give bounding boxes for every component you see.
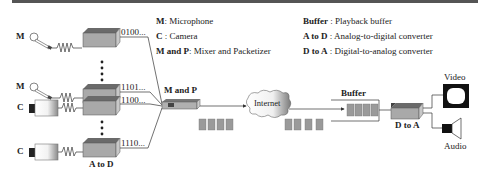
d-to-a-label: D to A xyxy=(395,120,420,130)
legend-desc: Camera xyxy=(170,31,198,41)
camera-icon-1 xyxy=(29,100,58,116)
internet-label: Internet xyxy=(254,98,280,108)
m-and-p-label: M and P xyxy=(164,85,197,95)
zigzag-wire-4 xyxy=(58,147,83,156)
legend-key: Buffer xyxy=(303,16,328,26)
adc-box-3 xyxy=(83,96,120,115)
dac-to-video-wire xyxy=(423,95,443,108)
legend-right-row-2: A to D : Analog-to-digital converter xyxy=(303,31,433,42)
mixer-packetizer-box xyxy=(162,99,200,109)
legend-desc: Analog-to-digital converter xyxy=(334,31,433,41)
legend-sep: : xyxy=(328,46,335,56)
legend-left-row-1: M: Microphone xyxy=(156,16,213,27)
legend-desc: Digital-to-analog converter xyxy=(335,46,433,56)
playback-buffer xyxy=(331,100,379,121)
audio-label: Audio xyxy=(444,141,467,151)
dac-to-audio-wire xyxy=(423,113,442,128)
legend-left-row-3: M and P: Mixer and Packetizer xyxy=(156,46,271,57)
code-label-4: 1110... xyxy=(121,138,145,148)
legend-sep: : xyxy=(328,16,335,26)
microphone-icon-2 xyxy=(30,83,52,100)
ellipsis-dots-1 xyxy=(101,61,104,82)
microphone-icon-1 xyxy=(30,33,52,50)
video-monitor-icon xyxy=(443,84,469,108)
legend-desc: Microphone xyxy=(169,16,213,26)
camera-icon-2 xyxy=(29,144,58,160)
legend-left-row-2: C : Camera xyxy=(156,31,198,42)
ellipsis-dots-2 xyxy=(101,121,104,136)
legend-desc: Playback buffer xyxy=(335,16,392,26)
code-label-2: 1101... xyxy=(121,82,145,92)
zigzag-wire-3 xyxy=(58,103,83,112)
video-label: Video xyxy=(444,72,465,82)
legend-right-row-3: D to A : Digital-to-analog converter xyxy=(303,46,433,57)
a-to-d-label: A to D xyxy=(89,159,114,169)
adc-box-1 xyxy=(83,28,120,47)
legend-right-row-1: Buffer : Playback buffer xyxy=(303,16,392,27)
legend-sep: : xyxy=(163,31,170,41)
buffer-label: Buffer xyxy=(341,88,366,98)
diagram-graphics xyxy=(0,0,491,182)
audio-speaker-icon xyxy=(442,118,461,139)
packets-1 xyxy=(199,119,233,130)
legend-key: M xyxy=(156,16,165,26)
source-label-2: M xyxy=(16,81,25,91)
packets-2 xyxy=(285,119,323,130)
source-label-3: C xyxy=(17,102,24,112)
source-label-1: M xyxy=(16,31,25,41)
code-label-1: 0100... xyxy=(121,27,146,37)
legend-key: M and P xyxy=(156,46,189,56)
legend-desc: Mixer and Packetizer xyxy=(194,46,271,56)
adc-box-4 xyxy=(83,138,120,157)
source-label-4: C xyxy=(17,146,24,156)
legend-key: A to D xyxy=(303,31,328,41)
code-label-3: 1100... xyxy=(121,95,145,105)
zigzag-wire-1 xyxy=(52,43,82,52)
legend-key: D to A xyxy=(303,46,328,56)
dac-box xyxy=(391,103,423,119)
